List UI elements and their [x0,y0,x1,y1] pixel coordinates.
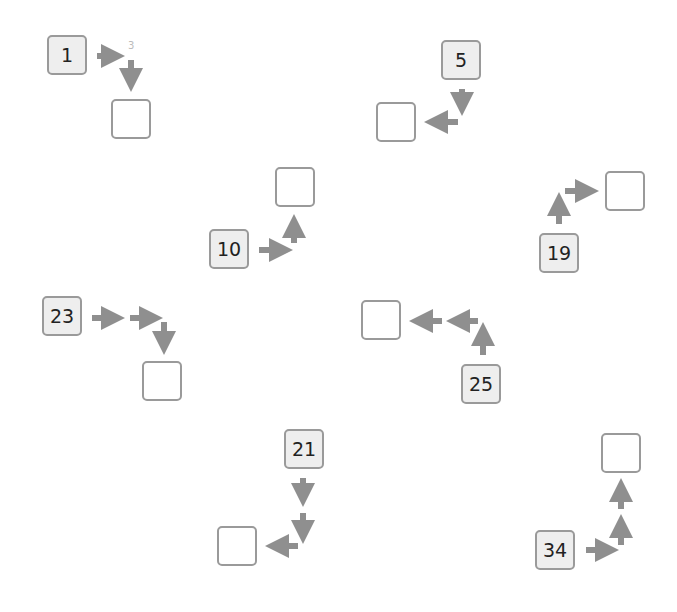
answer-box[interactable] [361,300,401,340]
start-box: 25 [461,364,501,404]
start-box: 10 [209,229,249,269]
arrow-layer [0,0,677,612]
start-box: 21 [284,429,324,469]
answer-box[interactable] [376,102,416,142]
answer-box[interactable] [111,99,151,139]
hint-number: 3 [128,40,134,51]
start-box: 1 [47,35,87,75]
answer-box[interactable] [601,433,641,473]
start-box: 23 [42,296,82,336]
answer-box[interactable] [217,526,257,566]
start-box: 5 [441,40,481,80]
answer-box[interactable] [605,171,645,211]
start-box: 34 [535,530,575,570]
start-box: 19 [539,233,579,273]
answer-box[interactable] [142,361,182,401]
answer-box[interactable] [275,167,315,207]
